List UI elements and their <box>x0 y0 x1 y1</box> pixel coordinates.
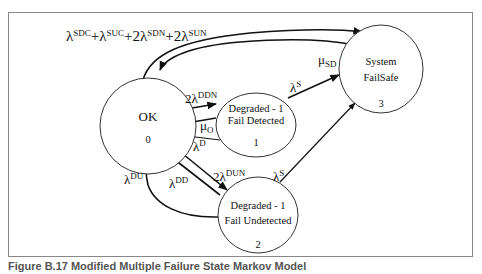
label-2-to-ok-dd: λDD <box>169 175 189 191</box>
state-system-failsafe[interactable]: System FailSafe 3 <box>339 25 423 113</box>
state-ok-label: OK <box>139 109 158 124</box>
label-1-to-ok-repair: μO <box>200 118 214 135</box>
label-failsafe-to-ok: μSD <box>318 52 337 69</box>
state-1-line2: Fail Detected <box>228 115 285 126</box>
label-2-to-ok-du: λDU <box>124 171 144 187</box>
state-3-number: 3 <box>378 98 383 109</box>
label-ok-to-1: 2λDDN <box>185 90 218 106</box>
figure-caption: Figure B.17 Modified Multiple Failure St… <box>8 259 306 274</box>
state-ok-number: 0 <box>145 134 150 145</box>
label-2-to-failsafe: λS <box>273 168 284 184</box>
state-3-line1: System <box>366 56 397 67</box>
state-3-line2: FailSafe <box>364 72 399 83</box>
state-ok[interactable]: OK 0 <box>100 78 196 174</box>
state-degraded-detected[interactable]: Degraded - 1 Fail Detected 1 <box>216 93 296 157</box>
state-1-line1: Degraded - 1 <box>229 103 284 114</box>
state-degraded-undetected[interactable]: Degraded - 1 Fail Undetected 2 <box>218 177 298 253</box>
label-1-to-ok-d: λD <box>193 138 206 154</box>
state-1-number: 1 <box>253 137 258 148</box>
state-2-line2: Fail Undetected <box>225 215 293 226</box>
markov-diagram: OK 0 Degraded - 1 Fail Detected 1 Degrad… <box>0 0 482 274</box>
state-2-number: 2 <box>255 239 260 250</box>
state-2-line1: Degraded - 1 <box>231 200 286 211</box>
label-ok-to-failsafe: λSDC+λSUC+2λSDN+2λSUN <box>66 28 207 44</box>
